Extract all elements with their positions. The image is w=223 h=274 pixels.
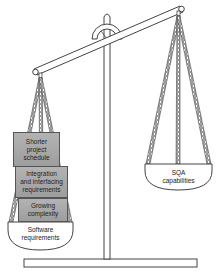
balance-scale-diagram: Shorter project schedule Integration and… — [0, 0, 223, 274]
scale-base — [24, 259, 197, 267]
weight-box-shorter-project-schedule: Shorter project schedule — [13, 132, 60, 167]
weight-label-line: schedule — [23, 154, 49, 162]
right-pan-label: SQA capabilities — [147, 169, 210, 185]
right-pan-label-line1: SQA — [147, 169, 210, 177]
right-chains — [146, 11, 211, 164]
left-pan-label-line2: requirements — [10, 234, 71, 242]
left-pan-label: Software requirements — [10, 226, 71, 242]
weight-label-line: project — [27, 146, 47, 154]
weight-label-line: Integration — [26, 170, 57, 178]
weight-box-growing-complexity: Growing complexity — [18, 198, 68, 222]
left-pan-label-line1: Software — [10, 226, 71, 234]
weight-label-line: and interfacing — [20, 178, 63, 186]
weight-label-line: complexity — [28, 210, 59, 218]
scale-post — [104, 28, 110, 259]
weight-label-line: Growing — [31, 202, 55, 210]
weight-label-line: Shorter — [26, 138, 47, 146]
weight-label-line: requirements — [23, 186, 61, 194]
right-pan-label-line2: capabilities — [147, 177, 210, 185]
weight-box-integration-requirements: Integration and interfacing requirements — [15, 166, 68, 198]
